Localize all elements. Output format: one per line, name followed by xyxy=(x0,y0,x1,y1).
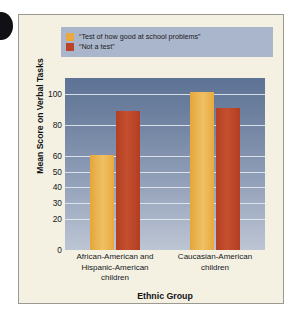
bar-group0-series0 xyxy=(90,155,114,250)
bar-group1-series1 xyxy=(216,108,240,250)
y-axis-tick-label: 100 xyxy=(48,89,62,99)
y-axis-ticks: 0203040506080100 xyxy=(19,78,62,250)
plot-canvas xyxy=(65,78,265,250)
figure-panel: “Test of how good at school problems” “N… xyxy=(18,14,284,304)
x-axis-category-labels: African-American andHispanic-Americanchi… xyxy=(65,252,265,284)
y-axis-tick-label: 40 xyxy=(53,182,62,192)
y-axis-tick-label: 80 xyxy=(53,120,62,130)
legend-swatch-icon-1 xyxy=(66,43,74,51)
x-axis-category-label-0: African-American andHispanic-Americanchi… xyxy=(65,252,165,284)
gridline xyxy=(65,94,265,95)
legend-label-1: “Not a test” xyxy=(79,42,115,51)
y-axis-tick-label: 30 xyxy=(53,198,62,208)
y-axis-tick-label: 0 xyxy=(57,245,62,255)
y-axis-tick-label: 50 xyxy=(53,167,62,177)
y-axis-tick-label: 20 xyxy=(53,214,62,224)
bar-group0-series1 xyxy=(116,111,140,250)
x-axis-title: Ethnic Group xyxy=(65,291,265,301)
legend-swatch-icon-0 xyxy=(66,33,74,41)
bar-group1-series0 xyxy=(190,92,214,250)
page-edge-tab xyxy=(0,12,13,40)
x-axis-category-label-1: Caucasian-Americanchildren xyxy=(165,252,265,284)
chart-plot-area xyxy=(65,78,265,250)
legend-label-0: “Test of how good at school problems” xyxy=(79,32,200,41)
chart-legend: “Test of how good at school problems” “N… xyxy=(61,27,273,57)
legend-item-1: “Not a test” xyxy=(66,42,268,51)
y-axis-tick-label: 60 xyxy=(53,151,62,161)
legend-item-0: “Test of how good at school problems” xyxy=(66,32,268,41)
